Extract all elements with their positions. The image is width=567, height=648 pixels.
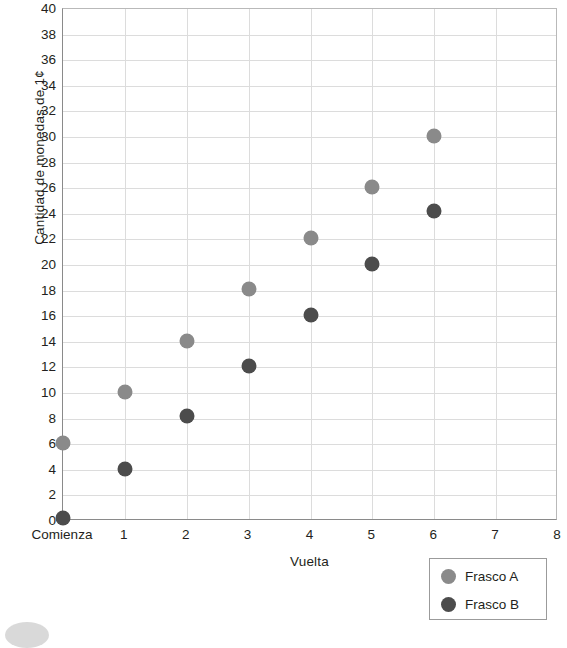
gridline-vertical — [249, 9, 250, 519]
gridline-horizontal — [63, 214, 556, 215]
y-tick-label: 2 — [10, 487, 56, 502]
y-tick-label: 36 — [10, 52, 56, 67]
y-tick-label: 8 — [10, 410, 56, 425]
legend-label-frasco-a: Frasco A — [465, 569, 518, 584]
y-tick-label: 10 — [10, 385, 56, 400]
legend-label-frasco-b: Frasco B — [465, 597, 519, 612]
gridline-horizontal — [63, 291, 556, 292]
gridline-vertical — [496, 9, 497, 519]
data-point-frasco-a — [303, 231, 318, 246]
gridline-horizontal — [63, 495, 556, 496]
gridline-horizontal — [63, 367, 556, 368]
x-tick-label: 7 — [491, 527, 499, 542]
data-point-frasco-b — [56, 511, 71, 526]
gridline-vertical — [311, 9, 312, 519]
legend-item-frasco-b: Frasco B — [441, 591, 519, 617]
gridline-vertical — [434, 9, 435, 519]
gridline-horizontal — [63, 60, 556, 61]
data-point-frasco-a — [365, 179, 380, 194]
gridline-horizontal — [63, 419, 556, 420]
y-tick-label: 14 — [10, 333, 56, 348]
data-point-frasco-b — [179, 409, 194, 424]
x-tick-label: 4 — [306, 527, 314, 542]
x-tick-label: 5 — [368, 527, 376, 542]
gridline-horizontal — [63, 163, 556, 164]
y-tick-label: 38 — [10, 26, 56, 41]
data-point-frasco-b — [117, 461, 132, 476]
y-tick-label: 30 — [10, 129, 56, 144]
data-point-frasco-a — [56, 435, 71, 450]
data-point-frasco-a — [179, 333, 194, 348]
x-tick-label: 3 — [244, 527, 252, 542]
y-tick-label: 16 — [10, 308, 56, 323]
gridline-horizontal — [63, 137, 556, 138]
y-tick-label: 22 — [10, 231, 56, 246]
gridline-horizontal — [63, 188, 556, 189]
y-tick-label: 28 — [10, 154, 56, 169]
data-point-frasco-b — [365, 256, 380, 271]
data-point-frasco-b — [427, 204, 442, 219]
gridline-horizontal — [63, 444, 556, 445]
data-point-frasco-b — [241, 359, 256, 374]
x-tick-label: 8 — [553, 527, 561, 542]
gridline-horizontal — [63, 35, 556, 36]
gridline-vertical — [125, 9, 126, 519]
gridline-horizontal — [63, 393, 556, 394]
y-tick-label: 34 — [10, 77, 56, 92]
page-corner-artifact — [5, 622, 49, 648]
legend: Frasco A Frasco B — [429, 558, 547, 620]
gridline-horizontal — [63, 470, 556, 471]
y-tick-label: 18 — [10, 282, 56, 297]
data-point-frasco-b — [303, 307, 318, 322]
data-point-frasco-a — [241, 282, 256, 297]
y-tick-label: 12 — [10, 359, 56, 374]
y-tick-label: 20 — [10, 257, 56, 272]
data-point-frasco-a — [427, 128, 442, 143]
x-tick-label: 2 — [182, 527, 190, 542]
x-tick-label: Comienza — [32, 527, 93, 542]
legend-swatch-frasco-a — [441, 569, 456, 584]
y-tick-label: 0 — [10, 513, 56, 528]
gridline-horizontal — [63, 265, 556, 266]
y-tick-label: 26 — [10, 180, 56, 195]
gridline-horizontal — [63, 111, 556, 112]
x-tick-label: 6 — [429, 527, 437, 542]
legend-item-frasco-a: Frasco A — [441, 563, 518, 589]
data-point-frasco-a — [117, 384, 132, 399]
gridline-vertical — [187, 9, 188, 519]
y-tick-label: 24 — [10, 205, 56, 220]
legend-swatch-frasco-b — [441, 597, 456, 612]
gridline-horizontal — [63, 342, 556, 343]
y-tick-label: 6 — [10, 436, 56, 451]
y-tick-label: 4 — [10, 461, 56, 476]
plot-area — [62, 8, 557, 520]
x-tick-label: 1 — [120, 527, 128, 542]
gridline-horizontal — [63, 86, 556, 87]
y-tick-label: 32 — [10, 103, 56, 118]
y-tick-label: 40 — [10, 1, 56, 16]
